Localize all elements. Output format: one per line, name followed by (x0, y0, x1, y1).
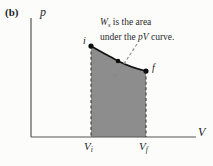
annotation-pv-symbol: pV (138, 32, 149, 42)
tick-vf-base: V (139, 140, 146, 152)
tick-label-vi: Vi (84, 141, 93, 153)
pv-diagram-figure: (b) p V i f Vi Vf Ws is the area under t… (0, 0, 213, 166)
annotation-line-1: Ws is the area (100, 16, 174, 31)
annotation-line-2-pre: under the (100, 32, 138, 42)
point-i-marker (88, 43, 93, 48)
point-f-marker (143, 68, 148, 73)
work-annotation-text: Ws is the area under the pV curve. (100, 16, 174, 43)
tick-vf-subscript: f (146, 145, 148, 154)
tick-vi-base: V (84, 140, 91, 152)
pressure-axis-label: p (40, 6, 46, 18)
tick-vi-subscript: i (91, 145, 93, 154)
panel-letter: (b) (5, 7, 18, 18)
annotation-line-2: under the pV curve. (100, 31, 174, 43)
point-i-label: i (83, 36, 86, 46)
curve-midpoint-marker (116, 59, 121, 64)
point-f-label: f (152, 63, 155, 73)
annotation-w-symbol: W (100, 17, 108, 27)
annotation-line-1-rest: is the area (110, 17, 151, 27)
volume-axis-label: V (198, 126, 205, 138)
tick-label-vf: Vf (139, 141, 148, 153)
annotation-line-2-post: curve. (149, 32, 175, 42)
